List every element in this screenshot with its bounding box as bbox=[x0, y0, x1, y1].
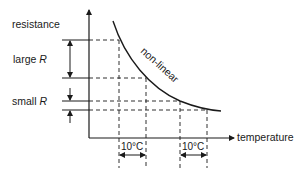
interval-left-label: 10°C bbox=[121, 141, 143, 152]
resistance-ticks bbox=[62, 40, 89, 110]
resistance-temperature-diagram: resistance temperature large R small R n… bbox=[0, 0, 302, 174]
curve-label: non-linear bbox=[139, 45, 182, 86]
large-r-prefix: large bbox=[13, 53, 39, 65]
x-axis-label: temperature bbox=[237, 131, 294, 143]
large-r-label: large R bbox=[13, 53, 47, 65]
small-r-symbol: R bbox=[39, 95, 47, 107]
small-r-prefix: small bbox=[12, 95, 39, 107]
interval-right-label: 10°C bbox=[182, 141, 204, 152]
small-r-label: small R bbox=[12, 95, 47, 107]
large-r-symbol: R bbox=[39, 53, 47, 65]
y-axis-label: resistance bbox=[12, 18, 60, 30]
